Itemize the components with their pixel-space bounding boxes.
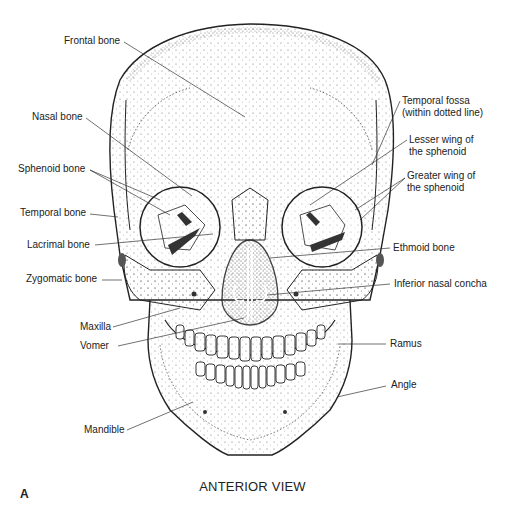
label-lesser-wing-line2: the sphenoid — [409, 146, 473, 158]
label-temporal-fossa: Temporal fossa (within dotted line) — [402, 95, 483, 119]
label-maxilla: Maxilla — [80, 321, 111, 333]
label-frontal-bone: Frontal bone — [64, 35, 120, 47]
label-mandible: Mandible — [84, 424, 125, 436]
label-lesser-wing: Lesser wing of the sphenoid — [409, 134, 473, 158]
label-ramus: Ramus — [390, 338, 422, 350]
label-greater-wing-line1: Greater wing of — [407, 170, 475, 182]
label-zygomatic-bone: Zygomatic bone — [26, 273, 97, 285]
label-ethmoid-bone: Ethmoid bone — [393, 242, 455, 254]
label-greater-wing: Greater wing of the sphenoid — [407, 170, 475, 194]
label-inferior-nasal-concha: Inferior nasal concha — [394, 278, 487, 290]
label-temporal-fossa-line2: (within dotted line) — [402, 107, 483, 119]
mandible-shape — [148, 300, 352, 455]
label-lacrimal-bone: Lacrimal bone — [27, 239, 90, 251]
label-angle: Angle — [391, 379, 417, 391]
label-temporal-bone: Temporal bone — [20, 207, 86, 219]
label-lesser-wing-line1: Lesser wing of — [409, 134, 473, 146]
label-greater-wing-line2: the sphenoid — [407, 182, 475, 194]
skull-illustration — [0, 0, 505, 508]
panel-letter: A — [20, 487, 29, 501]
label-temporal-fossa-line1: Temporal fossa — [402, 95, 483, 107]
label-sphenoid-bone: Sphenoid bone — [18, 163, 85, 175]
figure-caption: ANTERIOR VIEW — [0, 479, 505, 494]
label-vomer: Vomer — [80, 340, 109, 352]
label-nasal-bone: Nasal bone — [32, 111, 83, 123]
skull-diagram: Frontal bone Nasal bone Sphenoid bone Te… — [0, 0, 505, 508]
